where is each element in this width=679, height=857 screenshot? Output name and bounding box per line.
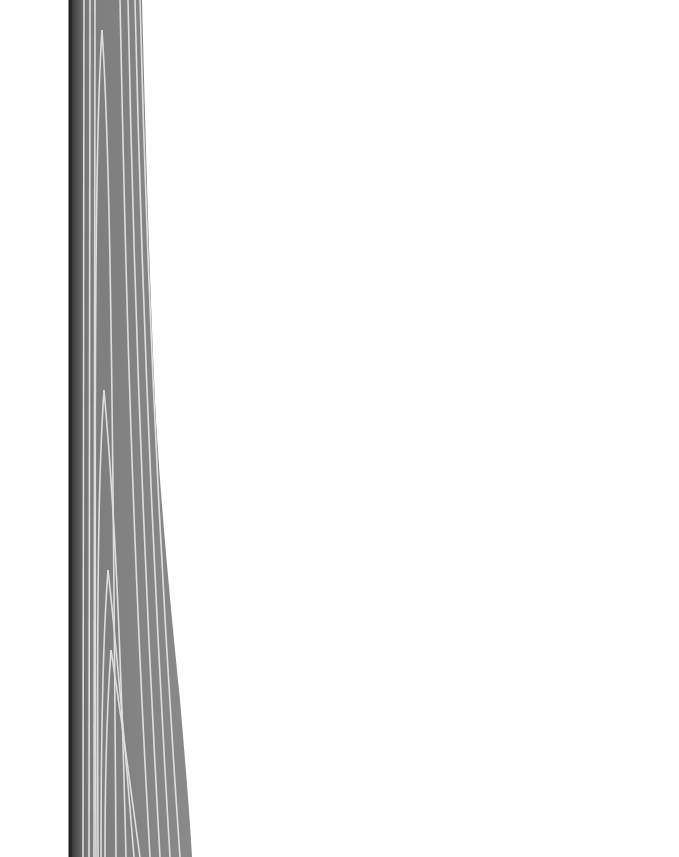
- wood-strip: [70, 0, 192, 857]
- wood-strip-image: [0, 0, 679, 857]
